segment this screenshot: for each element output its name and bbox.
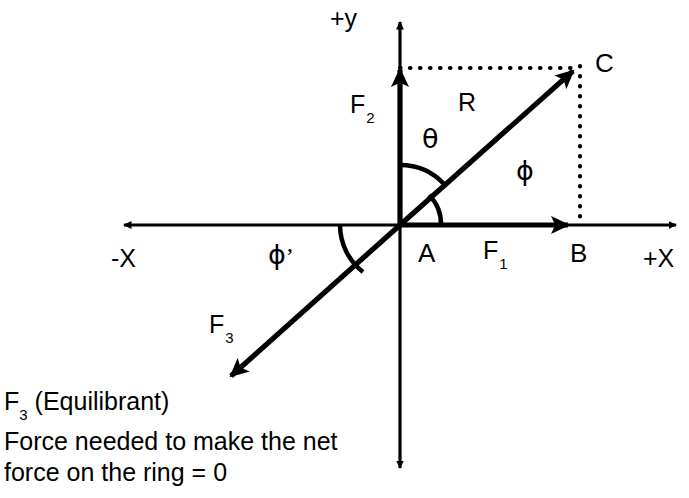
caption-block: F3 (Equilibrant) Force needed to make th… [4,386,404,488]
axis-label-plus-y: +y [330,6,357,31]
angle-label-phi-prime-base: ϕ [268,239,286,270]
axis-label-minus-x: -X [111,246,136,271]
angle-label-phi: ϕ [516,157,534,184]
angle-arc-theta [400,165,444,184]
force-vectors-group [231,70,573,376]
caption-line-2: Force needed to make the net [4,426,404,457]
angle-label-theta: θ [422,125,439,152]
angle-label-phi-prime-mark: ’ [286,243,294,269]
caption-line-1: F3 (Equilibrant) [4,386,404,426]
caption-line-1-base: F [4,387,19,415]
vector-label-f1-base: F [483,236,498,264]
point-label-c: C [595,50,614,76]
vector-label-f3-base: F [209,310,224,338]
angle-arc-phi [429,195,441,225]
point-label-a: A [418,240,435,266]
angle-label-phi-prime: ϕ’ [268,241,294,268]
vector-label-r: R [458,90,476,115]
vector-label-f1: F1 [483,238,507,267]
vector-label-f1-subscript: 1 [499,255,507,272]
vector-label-f2-base: F [350,90,365,118]
vector-label-f2-subscript: 2 [366,109,374,126]
vector-f3 [231,225,400,376]
caption-line-1-subscript: 3 [19,406,27,423]
caption-line-3: force on the ring = 0 [4,457,404,488]
diagram-canvas: +y +X -X A B C F2 F1 F3 R θ ϕ ϕ’ F3 (Equ… [0,0,689,498]
vector-label-f2: F2 [350,92,374,121]
point-label-b: B [570,240,587,266]
vector-label-f3: F3 [209,312,233,341]
vector-label-f3-subscript: 3 [225,329,233,346]
axis-label-plus-x: +X [643,246,674,271]
caption-line-1-rest: (Equilibrant) [28,387,170,415]
